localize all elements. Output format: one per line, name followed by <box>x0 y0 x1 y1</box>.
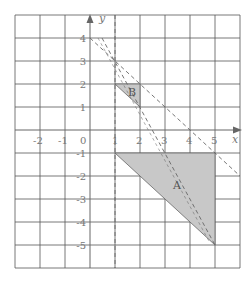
svg-text:-1: -1 <box>58 135 68 146</box>
svg-text:-2: -2 <box>76 171 86 182</box>
triangle-b-label: B <box>128 86 136 99</box>
svg-text:-2: -2 <box>33 135 43 146</box>
svg-text:-5: -5 <box>76 240 86 251</box>
svg-text:-1: -1 <box>76 148 86 159</box>
svg-text:-3: -3 <box>76 194 86 205</box>
svg-text:4: 4 <box>80 33 86 44</box>
svg-text:2: 2 <box>136 135 142 146</box>
coordinate-grid-diagram: y x 0 -2 -1 1 2 3 4 5 4 3 2 1 -1 -2 -3 -… <box>0 0 250 283</box>
origin-label: 0 <box>80 135 86 146</box>
x-tick-labels: -2 -1 1 2 3 4 5 <box>33 135 217 146</box>
triangle-a-label: A <box>172 179 182 192</box>
svg-text:1: 1 <box>112 135 118 146</box>
svg-text:-4: -4 <box>76 217 86 228</box>
svg-text:3: 3 <box>80 56 86 67</box>
svg-text:4: 4 <box>186 135 192 146</box>
svg-text:2: 2 <box>80 79 86 90</box>
y-axis-label: y <box>98 12 106 25</box>
x-axis-label: x <box>232 133 239 146</box>
svg-text:5: 5 <box>211 135 217 146</box>
svg-text:1: 1 <box>80 102 86 113</box>
svg-text:3: 3 <box>161 135 167 146</box>
